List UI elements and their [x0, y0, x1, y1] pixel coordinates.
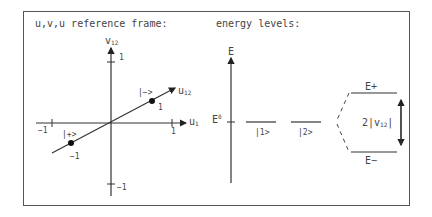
level-1-label: |1> — [255, 128, 269, 138]
e-plus-label: E+ — [365, 82, 377, 92]
energy-axis-label: E — [228, 47, 234, 57]
left-panel-title: u,v,u reference frame: — [35, 19, 167, 29]
v12-axis-label: v12 — [105, 36, 118, 48]
level-2-label: |2> — [298, 128, 312, 138]
point-plus-coord: −1 — [70, 152, 80, 162]
u1-axis-label: u1 — [189, 117, 199, 129]
point-plus-label: |+> — [62, 130, 76, 140]
e-minus-label: E− — [365, 156, 377, 166]
e0-label: E0 — [212, 112, 222, 125]
point-minus-label: |−> — [138, 88, 152, 98]
point-minus-coord: 1 — [158, 103, 163, 113]
point-minus — [149, 98, 155, 104]
diagram-graphics — [0, 0, 432, 217]
tick-label-v-pos: 1 — [119, 53, 124, 63]
tick-label-u-neg: −1 — [38, 126, 48, 136]
tick-label-u-pos: 1 — [171, 127, 176, 137]
splitting-label: 2|v12| — [362, 118, 393, 130]
tick-label-v-neg: −1 — [117, 183, 127, 193]
u12-line-label: u12 — [178, 86, 191, 98]
point-plus — [68, 140, 74, 146]
right-panel-title: energy levels: — [216, 19, 300, 29]
